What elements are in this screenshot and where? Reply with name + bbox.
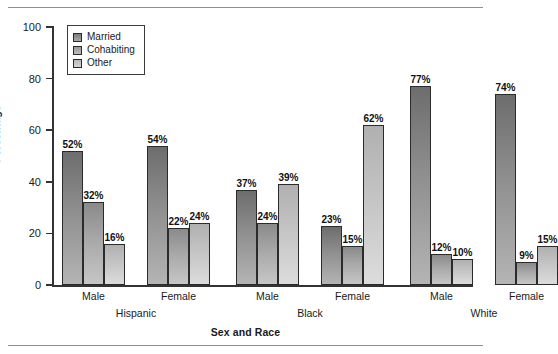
y-axis-tick-label: 0 [35, 280, 41, 291]
x-axis-sex-label: Female [335, 290, 370, 302]
legend-item-label: Cohabiting [87, 45, 135, 55]
bar: 24% [189, 223, 210, 285]
bar-value-label: 24% [257, 211, 277, 222]
bar: 23% [321, 226, 342, 285]
bar: 32% [83, 202, 104, 285]
y-axis-tick: 40 [46, 181, 52, 183]
top-divider-rule [8, 7, 483, 8]
y-axis-tick: 100 [46, 26, 52, 28]
bar-value-label: 16% [104, 232, 124, 243]
bar-value-label: 54% [147, 134, 167, 145]
bar: 9% [516, 262, 537, 285]
bar: 54% [147, 146, 168, 285]
x-axis-sex-label: Female [509, 290, 544, 302]
bar-value-label: 74% [495, 82, 515, 93]
chart-legend: MarriedCohabitingOther [67, 25, 145, 75]
legend-swatch-icon [73, 33, 82, 42]
y-axis-tick-label: 20 [29, 228, 41, 239]
bar-value-label: 10% [452, 247, 472, 258]
y-axis-tick-label: 80 [29, 73, 41, 84]
legend-item-label: Other [87, 58, 112, 68]
x-axis-sex-label: Male [82, 290, 105, 302]
bar-value-label: 9% [519, 250, 533, 261]
x-axis-line [52, 285, 473, 287]
bar: 62% [363, 125, 384, 285]
bar-value-label: 77% [410, 74, 430, 85]
legend-item-label: Married [87, 32, 121, 42]
x-axis-title: Sex and Race [0, 326, 491, 338]
bar: 10% [452, 259, 473, 285]
x-axis-sex-label: Male [430, 290, 453, 302]
legend-item: Other [73, 57, 135, 69]
bar-value-label: 12% [431, 242, 451, 253]
bar: 12% [431, 254, 452, 285]
bar-value-label: 52% [62, 139, 82, 150]
legend-item: Cohabiting [73, 44, 135, 56]
bar: 24% [257, 223, 278, 285]
bar-value-label: 15% [537, 234, 557, 245]
bar: 39% [278, 184, 299, 285]
bar: 74% [495, 94, 516, 285]
y-axis-tick: 60 [46, 129, 52, 131]
x-axis-race-label: Hispanic [116, 307, 156, 319]
legend-item: Married [73, 31, 135, 43]
bar-value-label: 23% [321, 214, 341, 225]
bar: 22% [168, 228, 189, 285]
bar: 77% [410, 86, 431, 285]
bottom-divider-rule [8, 345, 483, 346]
bar-value-label: 62% [363, 113, 383, 124]
y-axis-tick: 0 [46, 284, 52, 286]
y-axis-tick: 80 [46, 78, 52, 80]
x-axis-sex-label: Female [161, 290, 196, 302]
bar: 15% [342, 246, 363, 285]
bar-value-label: 22% [168, 216, 188, 227]
x-axis-race-label: Black [297, 307, 323, 319]
y-axis-tick-label: 60 [29, 125, 41, 136]
legend-swatch-icon [73, 59, 82, 68]
bar: 16% [104, 244, 125, 285]
y-axis-title: Percentage [0, 105, 2, 163]
y-axis-tick-label: 100 [23, 22, 41, 33]
bar-value-label: 37% [236, 178, 256, 189]
bar-value-label: 24% [189, 211, 209, 222]
bar-value-label: 15% [342, 234, 362, 245]
y-axis-tick-label: 40 [29, 176, 41, 187]
legend-swatch-icon [73, 46, 82, 55]
x-axis-race-label: White [471, 307, 498, 319]
bar-value-label: 32% [83, 190, 103, 201]
bar: 37% [236, 190, 257, 285]
bar-value-label: 39% [278, 172, 298, 183]
bar: 52% [62, 151, 83, 285]
y-axis-tick: 20 [46, 233, 52, 235]
bar: 15% [537, 246, 558, 285]
x-axis-sex-label: Male [256, 290, 279, 302]
